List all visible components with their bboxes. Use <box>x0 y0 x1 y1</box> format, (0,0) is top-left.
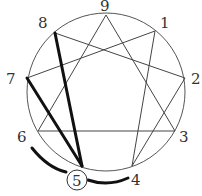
label-5: 5 <box>72 172 82 190</box>
hexad-1-4-2-8-5-7 <box>27 31 185 166</box>
label-9: 9 <box>100 0 110 15</box>
label-4: 4 <box>131 171 141 189</box>
wing-arc-6 <box>32 148 66 172</box>
label-3: 3 <box>179 128 189 146</box>
label-6: 6 <box>17 128 27 146</box>
label-1: 1 <box>160 14 170 32</box>
bold-lines <box>27 33 82 166</box>
outer-circle <box>27 13 185 171</box>
label-2: 2 <box>191 70 201 88</box>
label-8: 8 <box>38 14 48 32</box>
point-labels: 9 1 2 3 4 5 6 7 8 <box>6 0 201 190</box>
wing-arc-4 <box>88 178 128 183</box>
enneagram-diagram: 9 1 2 3 4 5 6 7 8 <box>0 0 202 196</box>
thin-lines <box>27 15 185 166</box>
label-7: 7 <box>6 70 16 88</box>
